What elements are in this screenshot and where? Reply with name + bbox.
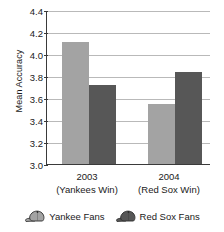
- bar-2003-red-sox-fans: [89, 85, 116, 164]
- baseball-cap-icon: [115, 209, 137, 224]
- bar-2004-yankee-fans: [148, 104, 175, 165]
- y-axis-tick-mark: [44, 55, 48, 56]
- chart-legend: Yankee FansRed Sox Fans: [0, 203, 224, 229]
- y-axis-tick-label: 3.4: [13, 117, 43, 127]
- y-axis-tick-mark: [44, 99, 48, 100]
- y-axis-tick-mark: [44, 121, 48, 122]
- x-axis-category-labels: 2003(Yankees Win)2004(Red Sox Win): [46, 170, 210, 200]
- y-axis-tick-mark: [44, 33, 48, 34]
- bar-2004-red-sox-fans: [175, 72, 202, 164]
- legend-item-label: Yankee Fans: [49, 211, 104, 222]
- plot-area: [46, 11, 210, 165]
- y-axis-tick-mark: [44, 165, 48, 166]
- baseball-cap-icon: [24, 209, 46, 224]
- y-axis-tick-label: 4.2: [13, 29, 43, 39]
- y-axis-tick-mark: [44, 11, 48, 12]
- y-axis-tick-label: 3.8: [13, 73, 43, 83]
- y-axis-tick-label: 3.0: [13, 161, 43, 171]
- y-axis-tick-label: 3.6: [13, 95, 43, 105]
- x-axis-group-label: 2004(Red Sox Win): [108, 170, 224, 196]
- y-axis-tick-mark: [44, 143, 48, 144]
- legend-item-label: Red Sox Fans: [140, 211, 200, 222]
- bar-2003-yankee-fans: [62, 42, 89, 164]
- y-axis-tick-label: 4.0: [13, 51, 43, 61]
- bar-chart-figure: Mean Accuracy 4.44.24.03.83.63.43.23.0 2…: [0, 0, 224, 232]
- gridline: [47, 33, 210, 34]
- x-axis-group-sublabel: (Red Sox Win): [108, 183, 224, 196]
- y-axis-tick-label: 4.4: [13, 7, 43, 17]
- gridline: [47, 11, 210, 12]
- legend-item-red-sox-fans: Red Sox Fans: [115, 209, 200, 224]
- x-axis-group-year: 2004: [108, 170, 224, 183]
- legend-item-yankee-fans: Yankee Fans: [24, 209, 104, 224]
- y-axis-tick-mark: [44, 77, 48, 78]
- y-axis-tick-label: 3.2: [13, 139, 43, 149]
